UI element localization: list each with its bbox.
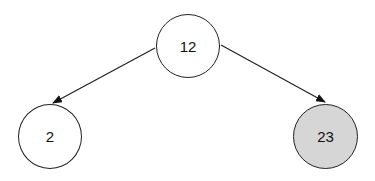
node-root: 12 [156, 14, 220, 78]
edge-root-left [53, 48, 155, 103]
node-left: 2 [18, 104, 82, 169]
node-right: 23 [293, 104, 358, 169]
node-label: 12 [180, 38, 197, 55]
edge-root-right [221, 45, 325, 102]
node-label: 23 [317, 128, 334, 145]
node-label: 2 [46, 128, 54, 145]
